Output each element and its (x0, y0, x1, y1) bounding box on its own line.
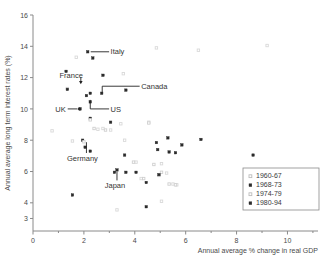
data-point (66, 88, 69, 91)
x-tick-label: 6 (184, 237, 188, 244)
legend-marker (249, 202, 252, 205)
annotation-label: Germany (67, 154, 98, 163)
y-tick-label: 8 (24, 137, 28, 144)
x-tick-label: 0 (31, 237, 35, 244)
annotation-label: Canada (141, 82, 168, 91)
data-point (51, 130, 53, 132)
leader-line (90, 100, 109, 109)
data-point (89, 150, 92, 153)
plot-canvas: 1614121086430246810Annual average % chan… (0, 0, 324, 261)
data-point (123, 139, 125, 141)
data-point (197, 49, 199, 51)
x-tick-label: 10 (284, 237, 292, 244)
series-1980-94 (125, 137, 255, 208)
data-point (123, 154, 126, 157)
y-tick-label: 6 (24, 168, 28, 175)
data-point (155, 141, 158, 144)
data-point (165, 172, 167, 174)
data-point (145, 205, 148, 208)
data-point (92, 57, 95, 60)
x-tick-label: 4 (133, 237, 137, 244)
data-point (109, 129, 111, 131)
axes-group: 1614121086430246810Annual average % chan… (4, 12, 318, 255)
y-axis-title: Annual average long term interest rates … (4, 55, 12, 190)
leader-line (102, 86, 139, 92)
data-point (156, 148, 159, 151)
data-point (200, 138, 203, 141)
data-point (122, 73, 124, 75)
data-points-group (51, 44, 268, 211)
y-tick-label: 16 (20, 12, 28, 19)
legend-label: 1960-67 (256, 172, 282, 179)
data-point (142, 177, 144, 179)
data-point (116, 209, 118, 211)
legend-marker (249, 193, 252, 196)
series-1960-67 (51, 44, 268, 211)
data-point (148, 122, 150, 124)
y-tick-label: 3 (24, 215, 28, 222)
data-point (140, 177, 142, 179)
annotation-uk: UK (55, 105, 80, 114)
y-tick-label: 12 (20, 74, 28, 81)
data-point (102, 74, 105, 77)
data-point (89, 119, 91, 121)
data-point (174, 184, 176, 186)
data-point (135, 161, 137, 163)
data-point (155, 47, 157, 49)
annotation-italy: Italy (91, 47, 125, 56)
legend-label: 1980-94 (256, 199, 282, 206)
data-point (109, 121, 112, 124)
data-point (120, 123, 122, 125)
legend-label: 1974-79 (256, 190, 282, 197)
annotation-japan: Japan (105, 172, 125, 190)
annotation-us: US (90, 100, 121, 114)
data-point (85, 94, 88, 97)
data-point (125, 171, 128, 174)
x-tick-label: 8 (235, 237, 239, 244)
data-point (181, 144, 184, 147)
data-point (135, 171, 138, 174)
legend-label: 1968-73 (256, 181, 282, 188)
data-point (160, 200, 162, 202)
annotation-canada: Canada (102, 82, 168, 92)
x-axis-title: Annual average % change in real GDP (198, 247, 319, 255)
data-point (93, 127, 95, 129)
annotation-label: France (59, 71, 82, 80)
data-point (132, 161, 134, 163)
data-point (160, 171, 162, 173)
legend-marker (249, 175, 252, 178)
data-point (113, 171, 116, 174)
data-point (252, 154, 255, 157)
y-tick-label: 10 (20, 106, 28, 113)
data-point (75, 56, 77, 58)
annotation-label: Japan (105, 181, 125, 190)
data-point (158, 173, 161, 176)
legend-group: 1960-671968-731974-791980-94 (243, 168, 319, 210)
data-point (104, 129, 106, 131)
data-point (145, 181, 148, 184)
data-point (160, 163, 162, 165)
annotation-label: US (111, 105, 121, 114)
data-point (86, 51, 89, 54)
annotation-france: France (59, 71, 82, 84)
data-point (174, 151, 177, 154)
data-point (168, 183, 170, 185)
annotation-germany: Germany (67, 142, 98, 163)
x-tick-label: 2 (82, 237, 86, 244)
data-point (125, 89, 128, 92)
data-point (83, 141, 85, 143)
annotation-label: UK (55, 105, 65, 114)
data-point (89, 92, 92, 95)
data-point (266, 44, 268, 46)
data-point (97, 128, 99, 130)
data-point (153, 163, 155, 165)
data-point (167, 137, 170, 140)
data-point (71, 194, 74, 197)
data-point (71, 140, 73, 142)
legend-marker (249, 184, 252, 187)
y-tick-label: 14 (20, 43, 28, 50)
data-point (102, 127, 104, 129)
annotations-group: ItalyFranceCanadaUKUSGermanyJapan (55, 47, 168, 190)
scatter-chart: 1614121086430246810Annual average % chan… (0, 0, 324, 261)
data-point (168, 151, 171, 154)
